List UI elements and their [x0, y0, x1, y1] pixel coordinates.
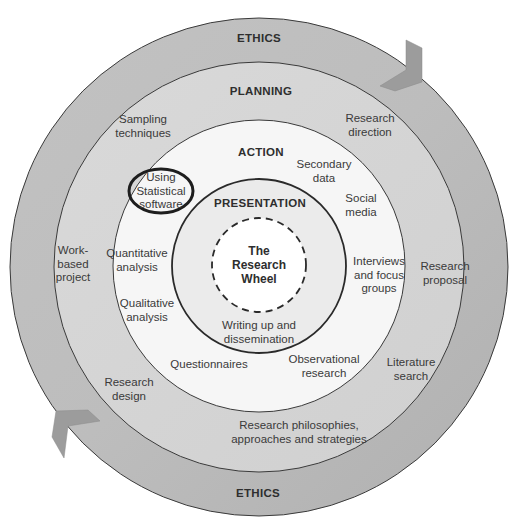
- planning-title: PLANNING: [230, 85, 292, 99]
- action-item-interviews-focus-groups: Interviews and focus groups: [353, 255, 405, 296]
- center-title: The Research Wheel: [232, 244, 286, 286]
- planning-item-literature-search: Literature search: [387, 356, 436, 383]
- action-item-quantitative-analysis: Quantitative analysis: [106, 247, 167, 274]
- action-item-using-statistical-software: Using Statistical software: [136, 171, 185, 212]
- ethics-title-bottom: ETHICS: [236, 487, 280, 501]
- action-title: ACTION: [238, 146, 284, 160]
- ethics-title-top: ETHICS: [237, 32, 281, 46]
- action-item-qualitative-analysis: Qualitative analysis: [120, 297, 174, 324]
- presentation-item-writing-up-dissemination: Writing up and dissemination: [222, 319, 296, 346]
- planning-item-work-based-project: Work- based project: [56, 244, 91, 285]
- planning-item-research-proposal: Research proposal: [420, 260, 469, 287]
- action-item-secondary-data: Secondary data: [297, 158, 352, 185]
- planning-item-sampling-techniques: Sampling techniques: [115, 113, 171, 140]
- planning-item-research-philosophies: Research philosophies, approaches and st…: [231, 419, 367, 446]
- action-item-questionnaires: Questionnaires: [170, 358, 247, 372]
- action-item-social-media: Social media: [345, 192, 376, 219]
- planning-item-research-design: Research design: [104, 376, 153, 403]
- presentation-title: PRESENTATION: [214, 197, 306, 211]
- planning-item-research-direction: Research direction: [345, 112, 394, 139]
- action-item-observational-research: Observational research: [289, 353, 360, 380]
